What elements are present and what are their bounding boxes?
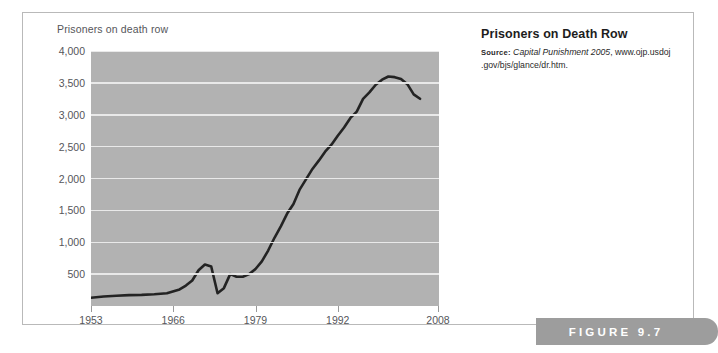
gridline bbox=[91, 82, 439, 84]
chart-axis-title: Prisoners on death row bbox=[57, 23, 168, 35]
y-axis-tick-label: 3,500 bbox=[35, 77, 85, 89]
figure-number-label: FIGURE 9.7 bbox=[536, 318, 696, 345]
figure-number-ribbon: FIGURE 9.7 bbox=[536, 318, 718, 345]
y-axis-tick-label: 3,000 bbox=[35, 109, 85, 121]
x-axis-tick bbox=[438, 306, 439, 312]
x-axis-tick bbox=[173, 306, 174, 312]
y-axis-tick-label: 2,500 bbox=[35, 141, 85, 153]
gridline bbox=[91, 210, 439, 212]
x-axis-tick-label: 1953 bbox=[79, 314, 102, 326]
y-axis-tick-label: 2,000 bbox=[35, 173, 85, 185]
plot-area bbox=[91, 51, 439, 306]
x-axis-tick-label: 1966 bbox=[162, 314, 185, 326]
data-series-line bbox=[91, 77, 420, 298]
y-axis-labels: 4,0003,5003,0002,5002,0001,5001,000500 bbox=[33, 51, 85, 306]
x-axis-labels: 19531966197919922008 bbox=[91, 306, 439, 336]
gridline bbox=[91, 178, 439, 180]
x-axis-tick bbox=[91, 306, 92, 312]
x-axis-tick-label: 1979 bbox=[244, 314, 267, 326]
x-axis-tick bbox=[256, 306, 257, 312]
y-axis-tick-label: 500 bbox=[35, 268, 85, 280]
figure-source-note: Source: Capital Punishment 2005, www.ojp… bbox=[481, 46, 681, 71]
gridline bbox=[91, 114, 439, 116]
gridline bbox=[91, 242, 439, 244]
x-axis-tick bbox=[338, 306, 339, 312]
x-axis-tick-label: 1992 bbox=[326, 314, 349, 326]
gridline bbox=[91, 273, 439, 275]
y-axis-tick-label: 1,000 bbox=[35, 236, 85, 248]
chart-container: Prisoners on death row 4,0003,5003,0002,… bbox=[33, 21, 453, 321]
figure-caption-title: Prisoners on Death Row bbox=[481, 27, 681, 41]
source-publication-title: Capital Punishment 2005 bbox=[513, 47, 610, 57]
caption-block: Prisoners on Death Row Source: Capital P… bbox=[481, 27, 681, 71]
x-axis-tick-label: 2008 bbox=[426, 314, 449, 326]
source-label: Source: bbox=[481, 48, 511, 57]
y-axis-tick-label: 4,000 bbox=[35, 45, 85, 57]
gridline bbox=[91, 146, 439, 148]
y-axis-tick-label: 1,500 bbox=[35, 204, 85, 216]
gridline bbox=[91, 51, 439, 52]
figure-frame: Prisoners on death row 4,0003,5003,0002,… bbox=[22, 12, 694, 325]
